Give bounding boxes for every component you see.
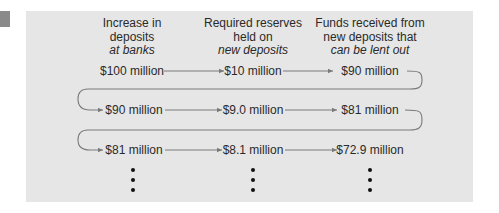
row2-deposits: $90 million <box>105 103 162 117</box>
column-header-lendable: Funds received from new deposits that ca… <box>295 17 445 58</box>
row1-deposits: $100 million <box>100 64 164 78</box>
row2-lendable: $81 million <box>341 103 398 117</box>
header-line-italic: can be lent out <box>295 44 445 58</box>
header-line: Funds received from <box>295 17 445 31</box>
row1-lendable: $90 million <box>341 64 398 78</box>
row1-reserves: $10 million <box>224 64 281 78</box>
row2-reserves: $9.0 million <box>223 103 284 117</box>
row3-lendable: $72.9 million <box>336 143 403 157</box>
row3-reserves: $8.1 million <box>223 143 284 157</box>
dot-icon <box>251 168 255 172</box>
dot-icon <box>368 188 372 192</box>
dot-icon <box>368 178 372 182</box>
dot-icon <box>368 168 372 172</box>
dot-icon <box>251 178 255 182</box>
dot-icon <box>251 188 255 192</box>
dot-icon <box>131 188 135 192</box>
row3-deposits: $81 million <box>105 143 162 157</box>
dot-icon <box>131 178 135 182</box>
dot-icon <box>131 168 135 172</box>
header-line: new deposits that <box>295 31 445 45</box>
